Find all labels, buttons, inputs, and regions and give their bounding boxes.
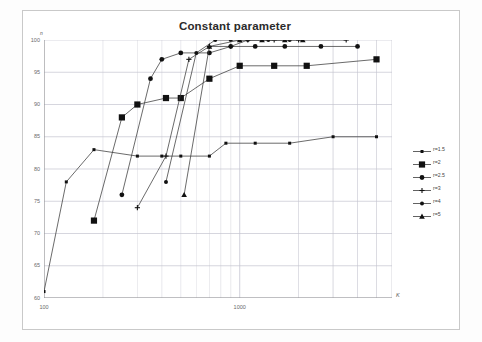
y-tick-100: 100: [24, 37, 40, 43]
legend-marker-circle-icon: [412, 169, 432, 180]
chart-legend: r=1.5r=2r=2.5r=3r=4r=5: [412, 142, 464, 220]
y-tick-90: 90: [24, 101, 40, 107]
series-r4: [164, 40, 292, 184]
legend-item-r5[interactable]: r=5: [412, 207, 464, 220]
y-tick-60: 60: [24, 295, 40, 301]
legend-item-r4[interactable]: r=4: [412, 194, 464, 207]
legend-item-r2[interactable]: r=2: [412, 155, 464, 168]
legend-marker-small-square-icon: [412, 143, 432, 154]
grid-lines: [44, 40, 392, 298]
legend-label: r=5: [433, 211, 441, 217]
legend-label: r=2: [433, 159, 441, 165]
x-axis-label: K: [396, 292, 400, 298]
series-r5: [181, 40, 305, 197]
legend-label: r=4: [433, 198, 441, 204]
legend-marker-large-square-icon: [412, 156, 432, 167]
y-tick-85: 85: [24, 133, 40, 139]
chart-figure: Constant parameter n K 10095908580757065…: [0, 0, 482, 342]
x-tick-100: 100: [31, 304, 57, 310]
legend-label: r=3: [433, 185, 441, 191]
legend-item-r3[interactable]: r=3: [412, 181, 464, 194]
legend-marker-circle-small-icon: [412, 195, 432, 206]
legend-item-r15[interactable]: r=1.5: [412, 142, 464, 155]
y-tick-80: 80: [24, 166, 40, 172]
chart-title: Constant parameter: [120, 20, 350, 32]
data-series-layer: [44, 40, 380, 293]
series-r15: [44, 135, 378, 293]
legend-label: r=1.5: [433, 146, 445, 152]
y-tick-70: 70: [24, 230, 40, 236]
legend-label: r=2.5: [433, 172, 445, 178]
series-r2: [91, 56, 380, 223]
legend-marker-plus-icon: [412, 182, 432, 193]
x-tick-1000: 1000: [227, 304, 253, 310]
y-tick-95: 95: [24, 69, 40, 75]
y-tick-75: 75: [24, 198, 40, 204]
plot-area: [44, 40, 392, 298]
y-tick-65: 65: [24, 262, 40, 268]
legend-item-r25[interactable]: r=2.5: [412, 168, 464, 181]
y-axis-label: n: [40, 30, 43, 36]
plot-svg: [44, 40, 392, 298]
legend-marker-triangle-icon: [412, 208, 432, 219]
